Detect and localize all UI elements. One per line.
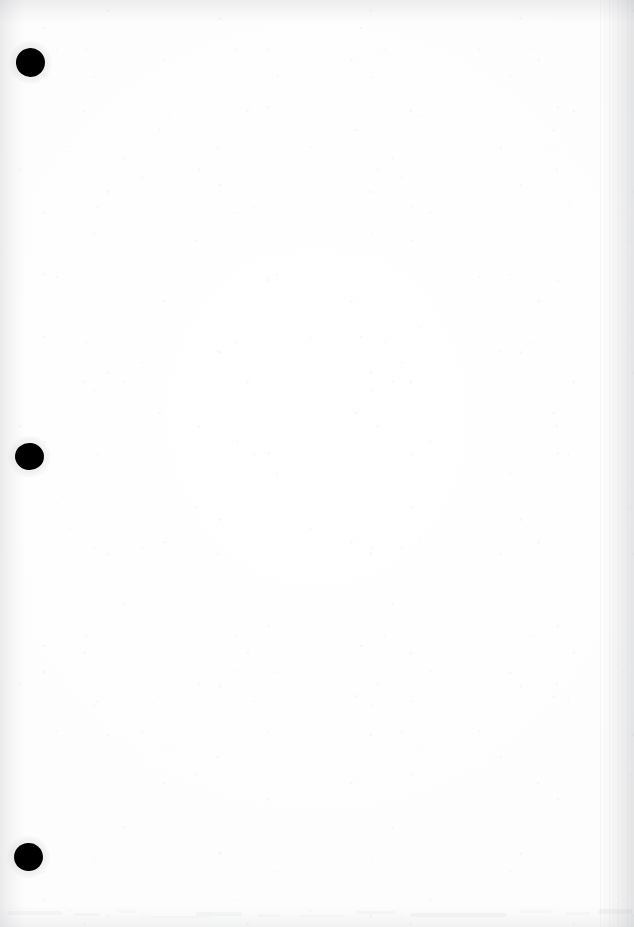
bottom-smudge-8 <box>566 912 590 915</box>
bottom-smudge-2 <box>118 910 136 913</box>
bottom-edge-smudges <box>0 908 634 922</box>
bottom-smudge-0 <box>8 911 62 915</box>
scanned-page <box>0 0 634 927</box>
bottom-smudge-7 <box>520 910 550 913</box>
bottom-smudge-1 <box>74 913 100 916</box>
bottom-smudge-5 <box>356 911 396 914</box>
bottom-smudge-11 <box>300 915 344 917</box>
paper-noise-texture <box>0 0 634 927</box>
bottom-smudge-10 <box>150 916 210 918</box>
page-edge-right-streaks <box>600 0 634 927</box>
bottom-smudge-9 <box>598 909 632 914</box>
bottom-smudge-4 <box>258 914 280 917</box>
bottom-smudge-6 <box>410 913 506 917</box>
